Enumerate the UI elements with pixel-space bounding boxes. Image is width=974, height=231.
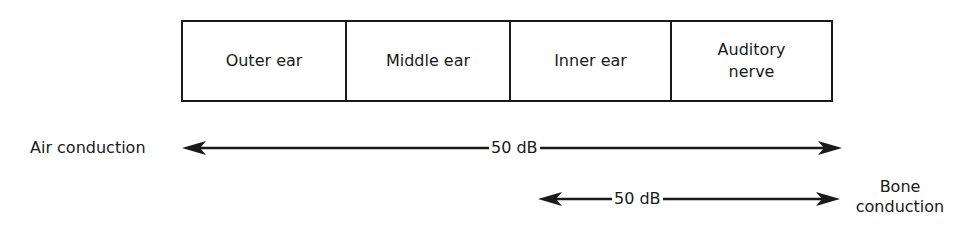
bone-conduction-arrow (538, 192, 840, 206)
bone-conduction-label-line1: Bone (852, 177, 948, 197)
air-conduction-label: Air conduction (30, 138, 146, 158)
bone-conduction-label-line2: conduction (852, 197, 948, 217)
air-conduction-value: 50 dB (489, 138, 540, 158)
conduction-arrows (0, 0, 974, 231)
bone-conduction-value: 50 dB (612, 189, 663, 209)
bone-conduction-label: Bone conduction (852, 177, 948, 217)
